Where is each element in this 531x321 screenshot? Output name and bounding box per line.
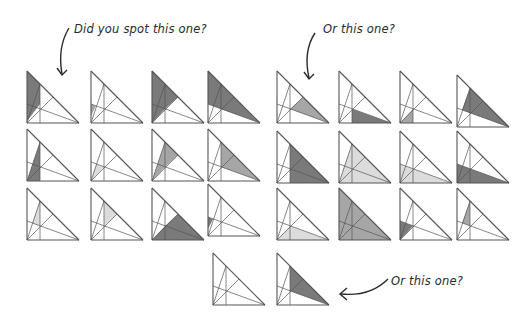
- triangle-figure: [90, 128, 144, 182]
- triangle-figure: [212, 252, 266, 306]
- triangle-figure: [338, 70, 392, 124]
- triangle-figure: [151, 187, 205, 241]
- triangle-figure: [151, 128, 205, 182]
- triangle-figure: [26, 70, 80, 124]
- shaded-region: [277, 226, 329, 240]
- callout-label-3: Or this one?: [391, 274, 463, 288]
- callout-label-2: Or this one?: [323, 22, 395, 36]
- triangle-figure: [276, 252, 330, 306]
- triangle-figure: [151, 70, 205, 124]
- shaded-region: [91, 164, 104, 181]
- triangle-figure: [90, 187, 144, 241]
- triangle-figure: [276, 70, 330, 124]
- triangle-figure: [26, 187, 80, 241]
- shaded-region: [462, 88, 509, 127]
- triangle-figure: [456, 74, 510, 128]
- triangle-figure: [26, 128, 80, 182]
- triangle-figure: [399, 130, 453, 184]
- triangle-figure: [338, 130, 392, 184]
- triangle-figure: [399, 187, 453, 241]
- triangle-figure: [207, 128, 261, 182]
- triangle-figure: [276, 130, 330, 184]
- shaded-region: [290, 97, 329, 123]
- triangle-figure: [456, 187, 510, 241]
- arrow-icon-left-3: [337, 276, 393, 306]
- shaded-region: [27, 71, 40, 121]
- triangle-figure: [399, 70, 453, 124]
- triangle-figure: [90, 70, 144, 124]
- triangle-figure: [207, 183, 261, 237]
- triangle-figure: [456, 130, 510, 184]
- diagram-canvas: Did you spot this one? Or this one? Or t…: [0, 0, 531, 321]
- shaded-region: [152, 214, 204, 240]
- shaded-region: [400, 221, 413, 240]
- shaded-region: [104, 201, 117, 226]
- triangle-figure: [207, 70, 261, 124]
- triangle-figure: [276, 187, 330, 241]
- callout-label-1: Did you spot this one?: [74, 22, 207, 36]
- shaded-region: [339, 144, 391, 183]
- triangle-figure: [338, 187, 392, 241]
